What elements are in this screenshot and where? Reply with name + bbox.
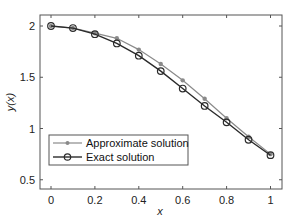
y-tick-label: 0.5: [20, 174, 35, 186]
x-axis-label: x: [156, 205, 163, 217]
asterisk-marker-icon: [181, 78, 185, 82]
legend-exact-label: Exact solution: [86, 151, 154, 163]
y-tick-label: 1: [29, 123, 35, 135]
y-axis-label: y(x): [4, 93, 16, 113]
asterisk-marker-icon: [66, 141, 70, 145]
x-tick-label: 0.2: [87, 194, 102, 206]
x-tick-label: 0.6: [175, 194, 190, 206]
asterisk-marker-icon: [137, 47, 141, 51]
y-tick-label: 2: [29, 20, 35, 32]
asterisk-marker-icon: [202, 97, 206, 101]
x-tick-label: 1: [267, 194, 273, 206]
asterisk-marker-icon: [159, 62, 163, 66]
chart: 00.20.40.60.810.511.52 Approximate solut…: [0, 0, 297, 222]
legend: Approximate solution Exact solution: [49, 135, 189, 165]
y-tick-label: 1.5: [20, 71, 35, 83]
x-tick-label: 0: [48, 194, 54, 206]
x-tick-label: 0.8: [219, 194, 234, 206]
x-tick-label: 0.4: [131, 194, 146, 206]
legend-approx-label: Approximate solution: [86, 137, 189, 149]
